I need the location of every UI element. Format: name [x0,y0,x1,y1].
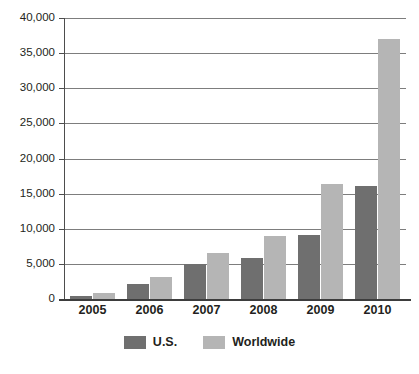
bar-u-s-2009 [298,235,320,299]
bar-worldwide-2010 [378,39,400,299]
x-axis-tick-label: 2010 [349,304,406,318]
y-axis-tick-label: 0 [1,293,55,305]
bar-worldwide-2005 [93,293,115,299]
x-axis-tick-label: 2005 [64,304,121,318]
legend-label-worldwide: Worldwide [232,336,295,349]
y-axis-tick-label: 35,000 [1,47,55,59]
bar-u-s-2010 [355,186,377,299]
y-axis-tick-label: 15,000 [1,188,55,200]
x-axis-labels: 200520062007200820092010 [64,304,406,324]
y-axis-tick-label: 25,000 [1,117,55,129]
y-axis-tick-label: 5,000 [1,258,55,270]
x-axis-tick-label: 2007 [178,304,235,318]
bar-worldwide-2007 [207,253,229,299]
bar-worldwide-2006 [150,277,172,299]
bar-u-s-2007 [184,264,206,299]
y-axis-tick-label: 30,000 [1,82,55,94]
plot-area [64,18,406,299]
x-axis-tick-label: 2006 [121,304,178,318]
y-axis-tick-label: 10,000 [1,223,55,235]
legend-swatch-worldwide-icon [203,336,225,349]
y-axis-labels: 40,000 35,000 30,000 25,000 20,000 15,00… [0,0,55,374]
bar-u-s-2005 [70,296,92,299]
bar-chart: 40,000 35,000 30,000 25,000 20,000 15,00… [0,0,419,374]
legend-item-worldwide: Worldwide [203,336,295,349]
x-axis-line [59,299,411,301]
legend-label-us: U.S. [153,336,177,349]
bar-u-s-2008 [241,258,263,299]
bar-worldwide-2008 [264,236,286,299]
x-axis-tick-label: 2009 [292,304,349,318]
chart-legend: U.S. Worldwide [0,336,419,349]
bar-u-s-2006 [127,284,149,299]
y-axis-tick-label: 40,000 [1,12,55,24]
y-axis-tick-label: 20,000 [1,153,55,165]
x-axis-tick-label: 2008 [235,304,292,318]
legend-swatch-us-icon [124,336,146,349]
bar-worldwide-2009 [321,184,343,299]
legend-item-us: U.S. [124,336,177,349]
